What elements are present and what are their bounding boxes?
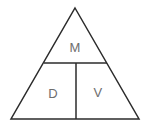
- triangle-cell-label-top: M: [69, 41, 80, 54]
- triangle-cell-label-bottom-right: V: [94, 86, 103, 99]
- triangle-cell-label-bottom-left: D: [48, 87, 58, 100]
- triangle-outline-graphic: [0, 0, 149, 128]
- formula-triangle-diagram: M D V: [0, 0, 149, 128]
